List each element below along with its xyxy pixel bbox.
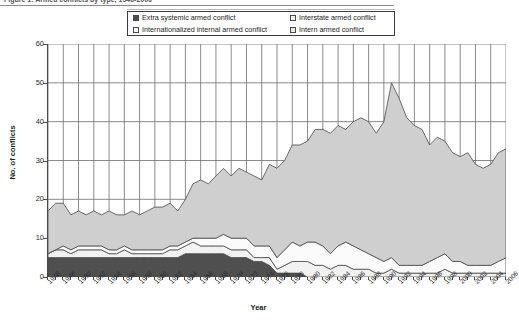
y-axis-tick-label: 50 bbox=[2, 79, 44, 87]
y-axis-tick-label: 10 bbox=[2, 234, 44, 242]
legend-item-internationalized-internal: Internationalized internal armed conflic… bbox=[128, 24, 288, 36]
legend-label-intern: Intern armed conflict bbox=[299, 26, 364, 34]
legend-swatch-icon-interstate bbox=[290, 15, 296, 21]
legend-label-internationalized-internal: Internationalized internal armed conflic… bbox=[142, 26, 267, 34]
legend-label-interstate: Interstate armed conflict bbox=[299, 14, 376, 22]
y-axis-tick-label: 0 bbox=[2, 273, 44, 281]
legend-item-intern: Intern armed conflict bbox=[288, 24, 391, 36]
legend-label-extra-systemic: Extra systemic armed conflict bbox=[142, 14, 235, 22]
y-axis-tick-label: 20 bbox=[2, 195, 44, 203]
x-axis-label: Year bbox=[0, 303, 517, 312]
chart-plot-area bbox=[47, 44, 505, 277]
chart-stacked-areas bbox=[48, 44, 506, 277]
y-axis-tick-label: 60 bbox=[2, 40, 44, 48]
legend-swatch-icon-extra-systemic bbox=[133, 15, 139, 21]
area-series-intern-armed-conflict bbox=[48, 83, 506, 266]
y-axis-label: No. of conflicts bbox=[8, 118, 17, 188]
chart-legend: Extra systemic armed conflict Interstate… bbox=[127, 11, 395, 36]
legend-row-1: Extra systemic armed conflict Interstate… bbox=[128, 12, 394, 24]
legend-item-extra-systemic: Extra systemic armed conflict bbox=[128, 12, 288, 24]
legend-row-2: Internationalized internal armed conflic… bbox=[128, 24, 394, 36]
caption-divider bbox=[0, 5, 394, 6]
x-axis-tick-label: 2006 bbox=[504, 270, 519, 285]
figure-caption: Figure 1: Armed conflicts by type, 1946-… bbox=[4, 0, 424, 4]
caption-divider-secondary bbox=[127, 9, 395, 10]
legend-swatch-icon-intern bbox=[290, 27, 296, 33]
legend-item-interstate: Interstate armed conflict bbox=[288, 12, 391, 24]
legend-swatch-icon-internationalized-internal bbox=[133, 27, 139, 33]
